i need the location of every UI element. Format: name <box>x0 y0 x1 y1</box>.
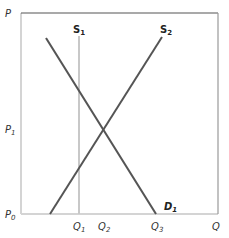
price-tick-p0: P0 <box>5 209 16 222</box>
demand-curve-d1 <box>46 38 156 214</box>
quantity-axis-label: Q <box>212 221 220 232</box>
quantity-tick-q1: Q1 <box>73 221 85 234</box>
quantity-tick-q2: Q2 <box>98 221 111 234</box>
curve-label-s1: S1 <box>73 24 85 37</box>
price-tick-p1: P1 <box>5 124 16 137</box>
price-axis-label: P <box>5 8 12 19</box>
quantity-tick-q3: Q3 <box>151 221 163 234</box>
supply-curve-s2 <box>50 37 162 214</box>
curve-label-d1: D1 <box>164 201 177 214</box>
supply-demand-diagram: P Q P1 P0 Q1 Q2 Q3 S1 S2 D1 <box>0 0 229 238</box>
curve-label-s2: S2 <box>160 24 172 37</box>
